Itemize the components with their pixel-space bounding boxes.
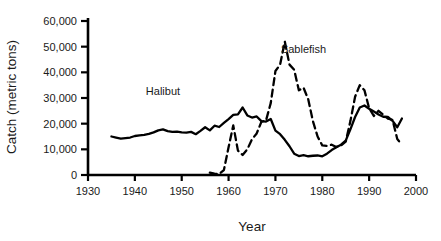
x-tick-label: 1940	[123, 185, 147, 197]
x-tick-label: 1950	[169, 185, 193, 197]
y-tick-label: 30,000	[43, 92, 77, 104]
x-tick-label: 1990	[357, 185, 381, 197]
x-tick-label: 1930	[76, 185, 100, 197]
y-axis-group: 010,00020,00030,00040,00050,00060,000	[43, 15, 88, 181]
catch-line-chart: 010,00020,00030,00040,00050,00060,000 19…	[0, 0, 441, 241]
x-tick-label: 2000	[404, 185, 428, 197]
chart-canvas: 010,00020,00030,00040,00050,00060,000 19…	[0, 0, 441, 241]
y-axis-tick-labels: 010,00020,00030,00040,00050,00060,000	[43, 15, 77, 181]
y-tick-label: 60,000	[43, 15, 77, 27]
y-tick-label: 0	[71, 169, 77, 181]
x-axis-title: Year	[238, 219, 266, 234]
y-tick-label: 10,000	[43, 143, 77, 155]
x-axis-tick-labels: 19301940195019601970198019902000	[76, 185, 428, 197]
y-tick-label: 20,000	[43, 118, 77, 130]
series-line-sablefish	[210, 42, 402, 174]
x-tick-label: 1960	[216, 185, 240, 197]
y-tick-label: 50,000	[43, 41, 77, 53]
series-label-sablefish: Sablefish	[281, 43, 326, 55]
series-label-halibut: Halibut	[146, 85, 180, 97]
x-axis-group: 19301940195019601970198019902000	[76, 175, 428, 197]
x-tick-label: 1970	[263, 185, 287, 197]
y-axis-title: Catch (metric tons)	[4, 40, 19, 154]
y-tick-label: 40,000	[43, 66, 77, 78]
x-tick-label: 1980	[310, 185, 334, 197]
data-series-group	[111, 42, 402, 174]
